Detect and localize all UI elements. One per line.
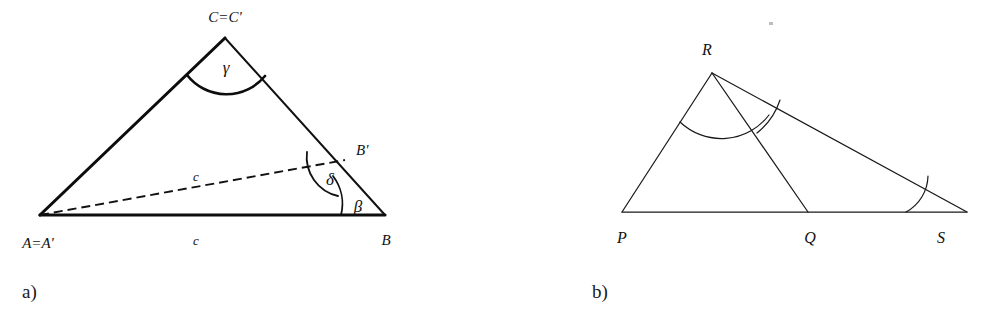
label-point-P: P [616, 229, 627, 246]
label-angle-delta: δ [326, 170, 335, 189]
label-point-Bprime: B' [356, 142, 369, 158]
label-point-A: A=A' [21, 235, 54, 251]
label-point-R: R [701, 41, 712, 58]
label-point-B: B [381, 232, 390, 248]
label-point-C: C=C' [208, 9, 242, 25]
figure-page: C=C'A=A'BB'ccγδβa) RPQSb) [0, 0, 998, 326]
scan-speck [769, 22, 773, 25]
panel-a-caption: a) [22, 281, 37, 303]
label-side-c-dashed: c [193, 169, 199, 184]
label-point-S: S [937, 229, 945, 246]
figure-background [0, 0, 998, 326]
label-angle-beta: β [353, 197, 363, 216]
label-side-c-base: c [193, 233, 199, 248]
geometry-figure: C=C'A=A'BB'ccγδβa) RPQSb) [0, 0, 998, 326]
panel-b-caption: b) [592, 281, 608, 303]
label-point-Q: Q [804, 229, 816, 246]
